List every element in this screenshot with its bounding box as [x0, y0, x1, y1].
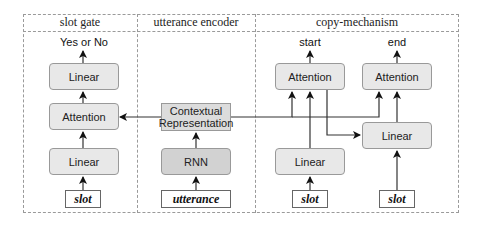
rnn-box: RNN [161, 148, 231, 175]
copy-output-end: end [362, 36, 432, 48]
copy-output-start: start [275, 36, 345, 48]
slot-gate-linear-top: Linear [49, 63, 119, 90]
copy-linear-right: Linear [362, 122, 432, 149]
contextual-line1: Contextual [170, 105, 223, 117]
copy-input-slot-left: slot [292, 190, 328, 208]
copy-attention-start: Attention [275, 63, 345, 90]
slot-gate-output-label: Yes or No [49, 36, 119, 48]
copy-linear-left: Linear [275, 148, 345, 175]
slot-gate-linear-bottom: Linear [49, 148, 119, 175]
utterance-input: utterance [161, 190, 231, 208]
slot-gate-input-slot: slot [65, 190, 101, 208]
contextual-representation: Contextual Representation [161, 103, 231, 131]
copy-input-slot-right: slot [379, 190, 415, 208]
contextual-line2: Representation [159, 117, 234, 129]
copy-attention-end: Attention [362, 63, 432, 90]
slot-gate-attention: Attention [49, 103, 119, 130]
